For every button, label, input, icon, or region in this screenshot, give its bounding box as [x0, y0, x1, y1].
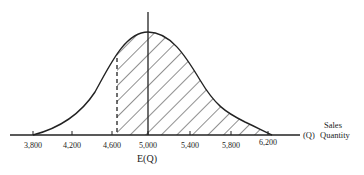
axis-label-quantity: Quantity	[320, 130, 350, 140]
tick-label: 3,800	[24, 141, 42, 150]
tick-label: 4,200	[63, 141, 81, 150]
axis-label-sales: Sales	[324, 120, 342, 130]
sales-distribution-chart: 3,800 4,200 4,600 5,000 5,400 5,800 6,20…	[0, 0, 364, 175]
tick-label: 6,200	[259, 138, 277, 147]
tick-label: 5,400	[181, 141, 199, 150]
axis-label-q: (Q)	[303, 130, 315, 140]
tick-label: 4,600	[103, 141, 121, 150]
tick-label: 5,800	[222, 141, 240, 150]
tick-label: 5,000	[139, 141, 157, 150]
mean-label: E(Q)	[137, 153, 157, 165]
